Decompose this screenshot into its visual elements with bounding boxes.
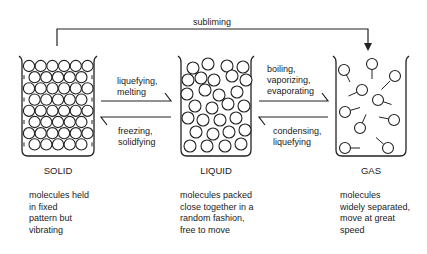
- state-label-liquid: LIQUID: [194, 165, 238, 176]
- molecule: [230, 112, 242, 124]
- description-line: random fashion,: [180, 213, 254, 225]
- molecule: [340, 107, 351, 118]
- molecule: [64, 94, 75, 105]
- description-line: molecules packed: [180, 190, 254, 202]
- molecule: [76, 72, 87, 83]
- molecule: [239, 124, 251, 136]
- molecule: [187, 62, 199, 74]
- molecule: [23, 60, 34, 71]
- motion-arrow: [382, 81, 391, 90]
- transition-line: liquefying,: [117, 76, 158, 87]
- description-line: move at great: [340, 213, 410, 225]
- molecule: [29, 72, 40, 83]
- molecule: [240, 74, 252, 86]
- molecule: [47, 128, 58, 139]
- molecule: [82, 83, 93, 94]
- subliming-arrow: [57, 29, 368, 46]
- molecule: [70, 105, 81, 116]
- subliming-label: subliming: [193, 17, 231, 28]
- molecule: [52, 72, 63, 83]
- molecule: [35, 83, 46, 94]
- state-label-solid: SOLID: [38, 165, 78, 176]
- molecule: [390, 71, 401, 82]
- molecule: [339, 65, 350, 76]
- molecule: [35, 60, 46, 71]
- arrow-gas-to-liquid: [259, 117, 328, 125]
- molecule: [383, 143, 394, 154]
- molecule: [82, 105, 93, 116]
- molecule: [70, 83, 81, 94]
- description-solid: molecules held in fixed pattern but vibr…: [29, 190, 89, 236]
- molecule: [76, 139, 87, 150]
- transition-line: liquefying: [273, 137, 322, 148]
- molecule: [59, 60, 70, 71]
- transition-line: condensing,: [273, 126, 322, 137]
- molecule: [64, 116, 75, 127]
- molecule: [29, 94, 40, 105]
- molecule: [47, 83, 58, 94]
- molecule: [231, 86, 243, 98]
- molecule: [181, 88, 193, 100]
- molecule: [64, 139, 75, 150]
- transition-line: solidfying: [118, 137, 156, 148]
- molecule: [23, 105, 34, 116]
- description-line: speed: [340, 225, 410, 237]
- molecule: [59, 128, 70, 139]
- solid-molecules: [23, 60, 93, 150]
- molecule: [47, 105, 58, 116]
- molecule: [41, 94, 52, 105]
- molecule: [184, 140, 196, 152]
- molecule: [357, 85, 368, 96]
- molecule: [219, 140, 231, 152]
- motion-arrow: [351, 108, 361, 111]
- molecule: [214, 114, 226, 126]
- molecule: [35, 128, 46, 139]
- molecule: [35, 105, 46, 116]
- molecule: [47, 60, 58, 71]
- transition-line: evaporating: [267, 86, 314, 97]
- molecule: [70, 128, 81, 139]
- molecule: [237, 61, 249, 73]
- motion-arrow: [376, 138, 384, 145]
- molecule: [52, 116, 63, 127]
- molecule: [182, 74, 194, 86]
- molecule: [373, 95, 384, 106]
- molecule: [222, 98, 234, 110]
- description-liquid: molecules packed close together in a ran…: [180, 190, 254, 236]
- molecule: [23, 83, 34, 94]
- transition-line: boiling,: [267, 64, 314, 75]
- liquid-molecules: [181, 58, 252, 152]
- molecule: [226, 70, 238, 82]
- molecule: [201, 140, 213, 152]
- molecule: [202, 58, 214, 70]
- description-line: molecules: [340, 190, 410, 202]
- molecule: [235, 138, 247, 150]
- motion-arrow: [379, 117, 389, 119]
- molecule: [41, 139, 52, 150]
- molecule: [206, 102, 218, 114]
- molecule: [207, 128, 219, 140]
- molecule: [76, 94, 87, 105]
- motion-arrow: [346, 74, 350, 82]
- molecule: [340, 143, 351, 154]
- label-freezing-solidfying: freezing, solidfying: [118, 126, 156, 148]
- molecule: [208, 74, 220, 86]
- molecule: [52, 139, 63, 150]
- molecule: [52, 94, 63, 105]
- description-line: in fixed: [29, 202, 89, 214]
- molecule: [29, 116, 40, 127]
- molecule: [64, 72, 75, 83]
- molecule: [76, 116, 87, 127]
- description-line: vibrating: [29, 225, 89, 237]
- molecule: [70, 60, 81, 71]
- arrow-liquid-to-solid: [101, 117, 171, 125]
- molecule: [223, 126, 235, 138]
- molecule: [197, 114, 209, 126]
- molecule: [189, 100, 201, 112]
- molecule: [41, 72, 52, 83]
- motion-arrow: [362, 115, 366, 124]
- label-liquefying-melting: liquefying, melting: [117, 76, 158, 98]
- molecule: [182, 112, 194, 124]
- subliming-arrowhead: [364, 43, 372, 51]
- transition-line: vaporizing,: [267, 75, 314, 86]
